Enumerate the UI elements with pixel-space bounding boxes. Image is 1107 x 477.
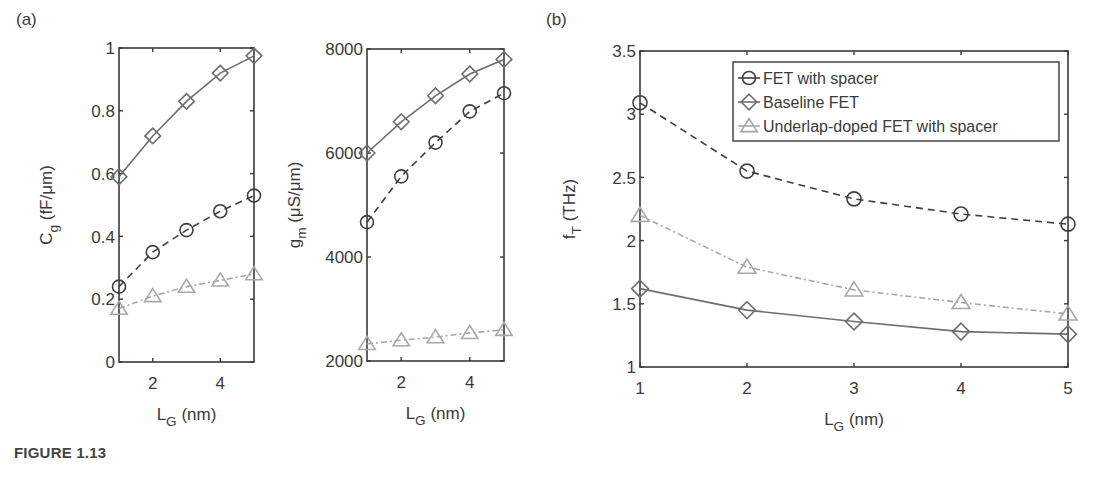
circle-marker-icon bbox=[395, 170, 408, 183]
triangle-marker-icon bbox=[462, 325, 478, 338]
series-line bbox=[367, 330, 504, 344]
legend-label: FET with spacer bbox=[763, 70, 879, 87]
legend-label: Underlap-doped FET with spacer bbox=[763, 118, 998, 135]
y-tick-label: 2000 bbox=[325, 352, 363, 371]
triangle-marker-icon bbox=[952, 294, 970, 308]
circle-marker-icon bbox=[463, 105, 476, 118]
triangle-marker-icon bbox=[845, 282, 863, 296]
x-axis-label: LG (nm) bbox=[157, 405, 217, 429]
x-axis-label: LG (nm) bbox=[406, 404, 466, 428]
series-line bbox=[367, 93, 504, 222]
x-tick-label: 2 bbox=[742, 379, 751, 398]
panel-label-a: (a) bbox=[16, 10, 37, 29]
x-tick-label: 4 bbox=[465, 373, 474, 392]
y-tick-label: 6000 bbox=[325, 144, 363, 163]
y-tick-label: 0 bbox=[106, 353, 115, 372]
triangle-marker-icon bbox=[145, 289, 161, 302]
y-tick-label: 0.4 bbox=[91, 228, 115, 247]
x-tick-label: 4 bbox=[216, 374, 225, 393]
y-tick-label: 3.5 bbox=[612, 42, 636, 61]
chart-gm-vs-lg: 242000400060008000LG (nm)gm (μS/μm) bbox=[285, 40, 512, 428]
triangle-marker-icon bbox=[738, 259, 756, 273]
y-tick-label: 2 bbox=[627, 232, 636, 251]
y-tick-label: 2.5 bbox=[612, 169, 636, 188]
triangle-marker-icon bbox=[212, 273, 228, 286]
figure-canvas: (a) (b) 2400.20.40.60.81LG (nm)Cg (fF/μm… bbox=[0, 0, 1107, 477]
x-tick-label: 4 bbox=[956, 379, 965, 398]
series-line bbox=[119, 196, 254, 287]
y-axis-label: fT (THz) bbox=[560, 179, 584, 239]
axes-box bbox=[119, 48, 254, 362]
circle-marker-icon bbox=[214, 205, 227, 218]
series-underlap-doped-fet bbox=[111, 267, 262, 315]
series-baseline-fet bbox=[111, 48, 262, 184]
x-tick-label: 1 bbox=[635, 379, 644, 398]
y-tick-label: 1.5 bbox=[612, 295, 636, 314]
triangle-marker-icon bbox=[393, 333, 409, 346]
figure-caption: FIGURE 1.13 bbox=[14, 444, 106, 461]
y-tick-label: 1 bbox=[106, 39, 115, 58]
circle-marker-icon bbox=[429, 136, 442, 149]
y-tick-label: 0.2 bbox=[91, 290, 115, 309]
x-tick-label: 3 bbox=[849, 379, 858, 398]
y-axis-label: Cg (fF/μm) bbox=[37, 165, 61, 245]
x-axis-label: LG (nm) bbox=[824, 410, 884, 434]
y-tick-label: 8000 bbox=[325, 40, 363, 59]
panel-label-b: (b) bbox=[546, 10, 567, 29]
y-tick-label: 0.6 bbox=[91, 165, 115, 184]
series-fet-with-spacer bbox=[361, 87, 511, 229]
legend-item-underlap-doped-fet: Underlap-doped FET with spacer bbox=[738, 118, 998, 135]
y-tick-label: 4000 bbox=[325, 248, 363, 267]
series-baseline-fet bbox=[359, 52, 512, 161]
series-underlap-doped-fet bbox=[359, 322, 512, 349]
series-line bbox=[367, 59, 504, 153]
x-tick-label: 2 bbox=[148, 374, 157, 393]
series-line bbox=[640, 215, 1068, 314]
y-tick-label: 1 bbox=[627, 358, 636, 377]
y-axis-label: gm (μS/μm) bbox=[285, 162, 309, 249]
legend-label: Baseline FET bbox=[763, 94, 859, 111]
chart-cg-vs-lg: 2400.20.40.60.81LG (nm)Cg (fF/μm) bbox=[37, 39, 262, 429]
legend: FET with spacerBaseline FETUnderlap-dope… bbox=[733, 62, 1059, 141]
series-fet-with-spacer bbox=[113, 189, 261, 293]
y-tick-label: 0.8 bbox=[91, 102, 115, 121]
series-line bbox=[119, 56, 254, 177]
series-underlap-doped-fet bbox=[631, 207, 1077, 320]
x-tick-label: 2 bbox=[397, 373, 406, 392]
x-tick-label: 5 bbox=[1063, 379, 1072, 398]
figure: (a) (b) 2400.20.40.60.81LG (nm)Cg (fF/μm… bbox=[0, 0, 1107, 477]
triangle-marker-icon bbox=[178, 279, 194, 292]
